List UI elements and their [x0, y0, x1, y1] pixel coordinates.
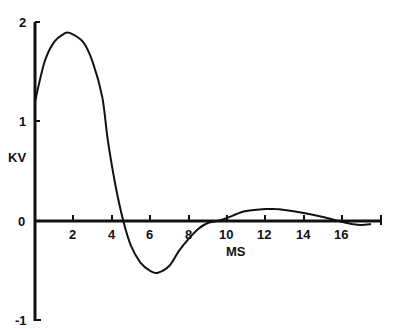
- y-tick-label-1: 1: [19, 114, 26, 129]
- y-tick-label-0: 0: [18, 214, 25, 229]
- y-tick-label-2: 2: [19, 15, 26, 30]
- x-axis-label: MS: [226, 244, 246, 259]
- x-tick-label-10: 10: [219, 227, 233, 242]
- y-axis-label: KV: [8, 150, 26, 165]
- x-tick-label-16: 16: [334, 227, 348, 242]
- waveform-line: [35, 32, 371, 273]
- x-tick-label-4: 4: [108, 227, 116, 242]
- chart: 2 1 KV 0 -1 2 4 6 8 10 12 14 16 MS: [0, 0, 394, 329]
- x-tick-label-12: 12: [257, 227, 271, 242]
- x-tick-label-14: 14: [296, 227, 311, 242]
- y-tick-label-m1: -1: [15, 313, 27, 328]
- x-tick-label-2: 2: [69, 227, 76, 242]
- x-tick-label-6: 6: [146, 227, 153, 242]
